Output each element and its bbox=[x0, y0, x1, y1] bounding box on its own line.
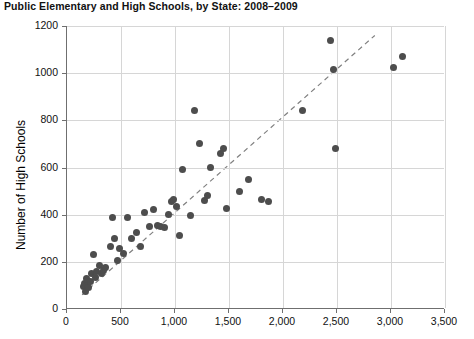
data-point bbox=[170, 196, 177, 203]
data-point bbox=[90, 251, 97, 258]
data-point bbox=[85, 284, 92, 291]
data-point bbox=[191, 107, 198, 114]
gridline-vertical bbox=[121, 26, 122, 308]
gridline-horizontal bbox=[67, 262, 444, 263]
data-point bbox=[179, 166, 186, 173]
data-point bbox=[207, 164, 214, 171]
data-point bbox=[150, 206, 157, 213]
y-axis-tick bbox=[62, 73, 66, 74]
data-point bbox=[141, 209, 148, 216]
gridline-vertical bbox=[283, 26, 284, 308]
data-point bbox=[165, 211, 172, 218]
x-axis-tick-label: 1,500 bbox=[198, 315, 258, 327]
x-axis-tick bbox=[282, 309, 283, 313]
y-axis-tick bbox=[62, 120, 66, 121]
data-point bbox=[327, 37, 334, 44]
x-axis-tick-label: 2,500 bbox=[306, 315, 366, 327]
data-point bbox=[299, 107, 306, 114]
gridline-vertical bbox=[445, 26, 446, 308]
data-point bbox=[109, 214, 116, 221]
data-point bbox=[111, 235, 118, 242]
y-axis-tick-label: 0 bbox=[0, 302, 58, 314]
data-point bbox=[204, 192, 211, 199]
chart-title: Public Elementary and High Schools, by S… bbox=[4, 0, 298, 12]
data-point bbox=[146, 223, 153, 230]
x-axis-tick bbox=[66, 309, 67, 313]
y-axis-tick-label: 1000 bbox=[0, 66, 58, 78]
y-axis-tick-label: 200 bbox=[0, 255, 58, 267]
data-point bbox=[102, 264, 109, 271]
chart-container: Public Elementary and High Schools, by S… bbox=[0, 0, 474, 339]
gridline-horizontal bbox=[67, 168, 444, 169]
x-axis-tick bbox=[390, 309, 391, 313]
x-axis-tick bbox=[174, 309, 175, 313]
y-axis-tick bbox=[62, 262, 66, 263]
gridline-horizontal bbox=[67, 26, 444, 27]
x-axis-tick-label: 0 bbox=[36, 315, 96, 327]
data-point bbox=[161, 224, 168, 231]
x-axis-tick bbox=[228, 309, 229, 313]
data-point bbox=[107, 243, 114, 250]
y-axis-tick bbox=[62, 168, 66, 169]
y-axis-tick-label: 800 bbox=[0, 113, 58, 125]
data-point bbox=[265, 198, 272, 205]
data-point bbox=[220, 145, 227, 152]
data-point bbox=[245, 176, 252, 183]
gridline-horizontal bbox=[67, 120, 444, 121]
data-point bbox=[399, 53, 406, 60]
data-point bbox=[173, 203, 180, 210]
y-axis-tick-label: 400 bbox=[0, 208, 58, 220]
gridline-vertical bbox=[229, 26, 230, 308]
plot-area bbox=[66, 26, 444, 309]
y-axis-tick-label: 1200 bbox=[0, 19, 58, 31]
gridline-vertical bbox=[175, 26, 176, 308]
data-point bbox=[176, 232, 183, 239]
data-point bbox=[332, 145, 339, 152]
data-point bbox=[236, 188, 243, 195]
x-axis-tick-label: 3,000 bbox=[360, 315, 420, 327]
x-axis-tick bbox=[444, 309, 445, 313]
gridline-horizontal bbox=[67, 73, 444, 74]
y-axis-tick bbox=[62, 215, 66, 216]
x-axis-tick-label: 2,000 bbox=[252, 315, 312, 327]
x-axis-tick-label: 1,000 bbox=[144, 315, 204, 327]
data-point bbox=[187, 212, 194, 219]
x-axis-tick bbox=[120, 309, 121, 313]
x-axis-tick-label: 3,500 bbox=[414, 315, 474, 327]
y-axis-tick-label: 600 bbox=[0, 161, 58, 173]
data-point bbox=[137, 243, 144, 250]
x-axis-tick-label: 500 bbox=[90, 315, 150, 327]
data-point bbox=[120, 250, 127, 257]
x-axis-tick bbox=[336, 309, 337, 313]
data-point bbox=[196, 140, 203, 147]
y-axis-label: Number of High Schools bbox=[14, 119, 28, 249]
data-point bbox=[390, 64, 397, 71]
data-point bbox=[133, 229, 140, 236]
data-point bbox=[258, 196, 265, 203]
data-point bbox=[128, 235, 135, 242]
gridline-vertical bbox=[337, 26, 338, 308]
data-point bbox=[124, 214, 131, 221]
y-axis-tick bbox=[62, 26, 66, 27]
